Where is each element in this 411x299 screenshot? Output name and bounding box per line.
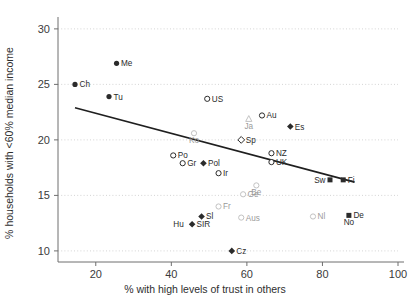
y-axis-title: % households with <60% median income — [3, 47, 15, 239]
data-point-marker — [216, 204, 221, 209]
data-point-marker — [238, 136, 245, 143]
data-point-marker — [198, 213, 205, 220]
data-point-label: Ge — [248, 190, 259, 199]
point-labels: ChMeTuUSKoJaAuEsSpNZUKPoGrPolIrBeSwFiGeF… — [80, 59, 365, 256]
data-point-marker — [216, 171, 221, 176]
x-tick-label: 80 — [316, 268, 328, 280]
data-point-label: Tu — [114, 93, 124, 102]
data-point-label: Au — [267, 111, 277, 120]
data-point-marker — [287, 123, 294, 130]
data-point-label: No — [344, 218, 355, 227]
data-point-marker — [341, 177, 346, 182]
data-point-label: Aus — [246, 214, 260, 223]
data-point-label: Sw — [314, 176, 325, 185]
data-point-label: Me — [121, 59, 133, 68]
data-point-marker — [106, 94, 111, 99]
trend-line — [75, 108, 355, 182]
scatter-plot-figure: 1015202530 20406080100 ChMeTuUSKoJaAuEsS… — [0, 0, 411, 299]
y-tick-labels: 1015202530 — [38, 23, 50, 257]
data-point-marker — [269, 159, 274, 164]
data-point-marker — [189, 221, 196, 228]
data-point-marker — [239, 215, 244, 220]
data-point-label: Ch — [80, 80, 91, 89]
data-point-marker — [205, 96, 210, 101]
data-point-label: UK — [276, 158, 288, 167]
x-axis-title: % with high levels of trust in others — [124, 283, 286, 295]
x-tick-labels: 20406080100 — [90, 268, 408, 280]
data-point-marker — [241, 192, 246, 197]
data-point-marker — [254, 183, 259, 188]
x-tick-label: 40 — [165, 268, 177, 280]
data-point-marker — [328, 177, 333, 182]
y-tick-label: 20 — [38, 134, 50, 146]
data-point-label: US — [212, 95, 224, 104]
data-point-label: Ir — [223, 169, 228, 178]
y-tick-label: 15 — [38, 189, 50, 201]
data-point-marker — [246, 116, 252, 122]
data-point-marker — [180, 161, 185, 166]
data-point-marker — [114, 61, 119, 66]
axes — [54, 17, 404, 266]
data-points — [72, 61, 351, 255]
data-point-marker — [72, 82, 77, 87]
data-point-label: De — [353, 211, 364, 220]
data-point-label: Sp — [246, 136, 256, 145]
data-point-label: Es — [295, 123, 305, 132]
x-tick-label: 60 — [241, 268, 253, 280]
chart-canvas: 1015202530 20406080100 ChMeTuUSKoJaAuEsS… — [0, 0, 411, 299]
data-point-marker — [310, 214, 315, 219]
y-tick-label: 10 — [38, 245, 50, 257]
data-point-label: Fi — [348, 176, 355, 185]
data-point-label: Fr — [223, 202, 231, 211]
data-point-label: Gr — [187, 159, 196, 168]
data-point-marker — [259, 113, 264, 118]
data-point-marker — [269, 151, 274, 156]
data-point-label: Ko — [189, 136, 199, 145]
data-point-marker — [191, 131, 196, 136]
data-point-label: Hu — [173, 220, 184, 229]
data-point-marker — [346, 213, 351, 218]
x-tick-label: 20 — [90, 268, 102, 280]
y-tick-label: 25 — [38, 78, 50, 90]
data-point-marker — [200, 160, 207, 167]
x-tick-label: 100 — [389, 268, 407, 280]
data-point-label: Nl — [318, 212, 326, 221]
data-point-label: Cz — [236, 247, 246, 256]
data-point-label: NZ — [276, 149, 287, 158]
data-point-label: Ja — [244, 122, 253, 131]
data-point-label: Pol — [208, 159, 220, 168]
y-tick-label: 30 — [38, 23, 50, 35]
data-point-marker — [228, 248, 235, 255]
data-point-marker — [171, 153, 176, 158]
data-point-label: SIR — [197, 220, 211, 229]
